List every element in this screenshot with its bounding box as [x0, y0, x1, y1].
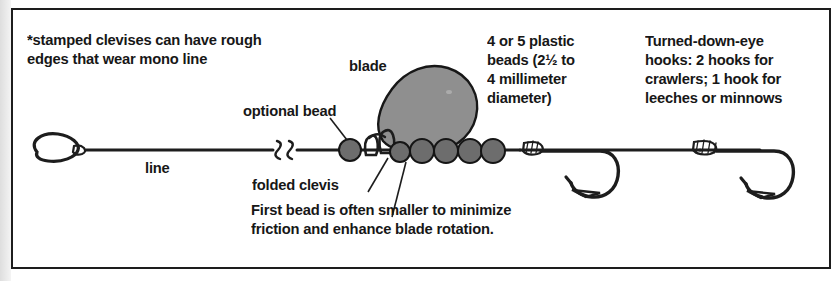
- note-turned-down-eye-hooks: Turned-down-eye hooks: 2 hooks for crawl…: [645, 31, 821, 107]
- spinner-rig-figure: *stamped clevises can have rough edges t…: [0, 0, 840, 281]
- hook-1-point: [566, 177, 571, 183]
- line-loop: [34, 134, 78, 162]
- note-plastic-beads: 4 or 5 plastic beads (2½ to 4 millimeter…: [487, 31, 611, 107]
- hook-2-point: [741, 178, 746, 184]
- line-break-symbol: [275, 141, 292, 159]
- blade-highlight: [446, 90, 452, 94]
- bead-3: [434, 139, 458, 163]
- bead-5: [481, 139, 505, 163]
- callout-optional-bead: optional bead: [243, 101, 336, 120]
- leader-optional-bead: [330, 118, 347, 140]
- callout-blade: blade: [349, 56, 387, 75]
- callout-line: line: [145, 158, 170, 177]
- leader-folded-clevis: [368, 158, 388, 192]
- bead-optional: [339, 139, 361, 161]
- bead-4: [458, 139, 482, 163]
- bead-first-small: [390, 142, 410, 162]
- bead-2: [410, 139, 434, 163]
- callout-folded-clevis: folded clevis: [252, 175, 339, 194]
- caption-first-bead: First bead is often smaller to minimize …: [251, 200, 593, 238]
- note-stamped-clevises: *stamped clevises can have rough edges t…: [27, 30, 341, 68]
